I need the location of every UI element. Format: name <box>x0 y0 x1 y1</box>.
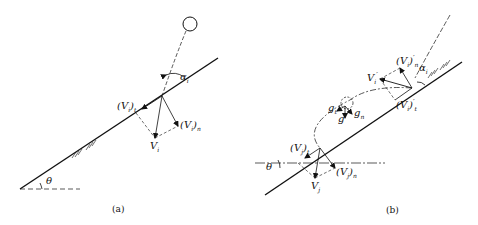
label-vt-a: (Vi)t <box>117 101 136 113</box>
velocity-vjn <box>320 148 335 168</box>
label-alpha-b: αi <box>419 63 428 75</box>
label-vj: Vj <box>311 181 320 193</box>
label-vjn: (Vj)n <box>336 167 357 179</box>
trajectory-a <box>162 31 186 96</box>
label-vjt: (Vj)t <box>290 143 309 155</box>
label-vn-a: (Vi)n <box>180 120 201 132</box>
velocity-vn-a <box>162 96 178 126</box>
velocity-vt-a <box>142 96 162 109</box>
caption-b: (b) <box>386 206 399 215</box>
label-vt-prime: (Vi)′t <box>396 99 417 112</box>
label-gt: gt <box>328 103 337 115</box>
label-theta-b: θ <box>266 162 272 172</box>
label-g: g <box>338 114 344 124</box>
velocity-vi-a <box>155 96 162 138</box>
diagram-svg <box>0 0 478 225</box>
label-alpha-a: αi <box>180 72 189 84</box>
label-vi-prime: Vi′ <box>367 72 378 85</box>
label-gn: gn <box>354 108 364 120</box>
ground-hatch-b <box>428 60 450 78</box>
label-vi-a: Vi <box>150 141 159 153</box>
panel-b <box>255 15 462 195</box>
rock-circle-a <box>183 17 197 31</box>
label-vn-prime: (Vi)′n <box>396 55 418 68</box>
ground-hatch-a <box>72 140 96 158</box>
label-theta-a: θ <box>46 176 52 186</box>
caption-a: (a) <box>112 205 124 214</box>
figure: αi (Vi)t (Vi)n Vi θ (a) αi (Vi)′n Vi′ (V… <box>0 0 478 225</box>
slope-line-b <box>265 62 462 195</box>
